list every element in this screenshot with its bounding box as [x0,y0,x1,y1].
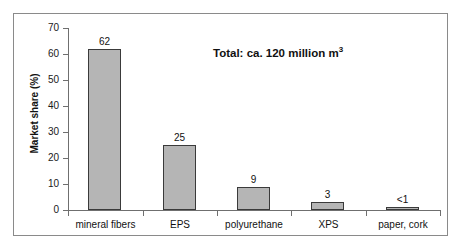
y-tick-70 [63,28,69,29]
bar-paper-cork[interactable] [386,207,419,210]
bar-value-xps: 3 [307,189,348,200]
bar-value-eps: 25 [159,132,200,143]
bar-value-polyurethane: 9 [233,174,274,185]
bar-eps[interactable] [163,145,196,210]
total-annotation: Total: ca. 120 million m3 [213,47,343,59]
x-category-label-mineral-fibers: mineral fibers [68,219,143,230]
y-tick-label-40: 40 [19,101,59,111]
x-category-label-xps: XPS [291,219,366,230]
bar-xps[interactable] [311,202,344,210]
x-category-label-paper-cork: paper, cork [366,219,440,230]
x-category-label-polyurethane: polyurethane [217,219,291,230]
x-tick-boundary-0 [68,210,69,216]
total-annotation-superscript: 3 [339,45,343,54]
y-tick-label-50: 50 [19,75,59,85]
x-tick-boundary-1 [143,210,144,216]
x-tick-boundary-2 [217,210,218,216]
x-category-label-eps: EPS [143,219,217,230]
x-tick-boundary-4 [366,210,367,216]
y-tick-label-60: 60 [19,49,59,59]
plot-area: Market share (%) 70 60 50 40 30 20 10 0 [0,0,462,247]
bar-value-mineral-fibers: 62 [84,36,125,47]
y-tick-label-30: 30 [19,127,59,137]
y-tick-50 [63,80,69,81]
y-tick-10 [63,184,69,185]
y-tick-label-70: 70 [19,23,59,33]
x-tick-boundary-5 [440,210,441,216]
bar-value-paper-cork: <1 [382,194,423,205]
y-tick-label-20: 20 [19,153,59,163]
total-annotation-text: Total: ca. 120 million m [213,47,339,59]
y-tick-60 [63,54,69,55]
y-tick-20 [63,158,69,159]
x-tick-boundary-3 [291,210,292,216]
y-tick-label-0: 0 [19,205,59,215]
x-axis-line [68,210,441,211]
y-tick-30 [63,132,69,133]
figure: Market share (%) 70 60 50 40 30 20 10 0 [0,0,462,247]
bar-mineral-fibers[interactable] [88,49,121,210]
bar-polyurethane[interactable] [237,187,270,210]
y-tick-40 [63,106,69,107]
y-tick-label-10: 10 [19,179,59,189]
